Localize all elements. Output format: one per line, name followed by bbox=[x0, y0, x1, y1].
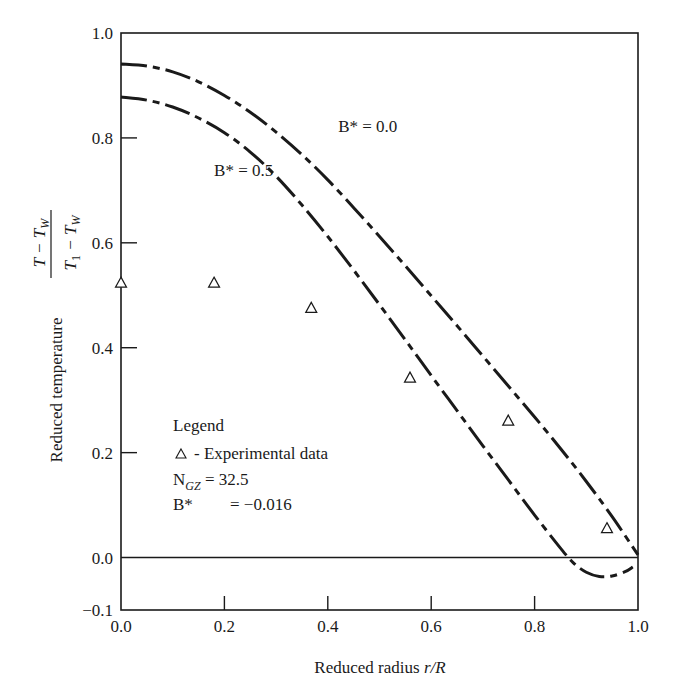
data-point-experimental bbox=[601, 523, 612, 533]
chart: 0.00.20.40.60.81.0−0.10.00.20.40.60.81.0… bbox=[0, 0, 681, 681]
y-tick-label: 1.0 bbox=[92, 24, 113, 43]
y-axis-title-denominator: T1 − TW bbox=[61, 215, 83, 271]
x-tick-label: 0.4 bbox=[317, 617, 339, 636]
x-tick-label: 1.0 bbox=[627, 617, 648, 636]
data-point-experimental bbox=[503, 415, 514, 425]
y-tick-label: 0.2 bbox=[92, 444, 113, 463]
annotation-bstar-0: B* = 0.0 bbox=[338, 117, 397, 136]
axis-ticks: 0.00.20.40.60.81.0−0.10.00.20.40.60.81.0 bbox=[82, 24, 648, 636]
y-tick-label: 0.6 bbox=[92, 234, 113, 253]
series-line-b-0-5 bbox=[121, 97, 633, 577]
x-axis-title-italic: r/R bbox=[424, 658, 446, 677]
y-denominator-b-sub: W bbox=[69, 215, 83, 226]
data-point-experimental bbox=[209, 277, 220, 287]
y-tick-label: 0.0 bbox=[92, 549, 113, 568]
legend-bstar: B*= −0.016 bbox=[173, 495, 292, 514]
y-axis-title-plain: Reduced temperature bbox=[47, 318, 66, 463]
legend-triangle-icon bbox=[176, 449, 186, 458]
y-denominator-b: − T bbox=[61, 224, 80, 255]
legend-ngz-label: N bbox=[173, 470, 185, 489]
data-point-experimental bbox=[405, 372, 416, 382]
annotation-bstar-0-5: B* = 0.5 bbox=[214, 161, 273, 180]
x-axis-title-plain: Reduced radius bbox=[314, 658, 424, 677]
legend-ngz-value: = 32.5 bbox=[201, 470, 249, 489]
x-tick-label: 0.0 bbox=[110, 617, 131, 636]
x-tick-label: 0.8 bbox=[524, 617, 545, 636]
y-axis-title: Reduced temperature T − TW T1 − TW bbox=[30, 210, 83, 462]
x-tick-label: 0.6 bbox=[421, 617, 442, 636]
legend-bstar-label: B* bbox=[173, 495, 193, 514]
series-layer bbox=[121, 64, 638, 577]
y-axis-title-numerator: T − TW bbox=[30, 218, 52, 268]
legend-entry-experimental: - Experimental data bbox=[176, 444, 329, 463]
x-axis-title: Reduced radius r/R bbox=[314, 658, 446, 677]
legend-entry-label: - Experimental data bbox=[194, 444, 329, 463]
legend: Legend - Experimental data NGZ = 32.5 B*… bbox=[173, 416, 329, 514]
legend-title: Legend bbox=[173, 416, 224, 435]
y-tick-label: 0.8 bbox=[92, 129, 113, 148]
data-point-experimental bbox=[116, 277, 127, 287]
legend-ngz: NGZ = 32.5 bbox=[173, 470, 248, 493]
legend-ngz-sub: GZ bbox=[185, 479, 201, 493]
legend-bstar-value: = −0.016 bbox=[230, 495, 292, 514]
data-point-experimental bbox=[306, 302, 317, 312]
y-tick-label: −0.1 bbox=[82, 601, 113, 620]
y-tick-label: 0.4 bbox=[92, 339, 114, 358]
y-numerator-sub: W bbox=[38, 218, 52, 229]
x-tick-label: 0.2 bbox=[214, 617, 235, 636]
y-numerator-text: T − T bbox=[30, 227, 49, 267]
